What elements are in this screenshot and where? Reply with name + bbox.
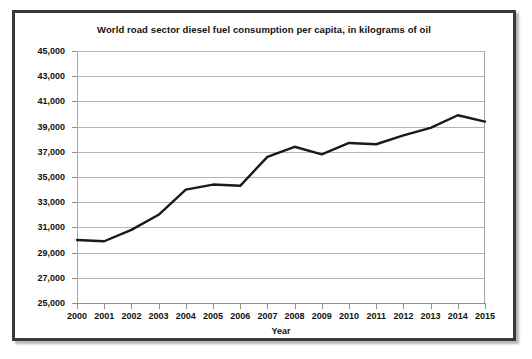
x-axis-tick-label: 2004 (176, 311, 196, 321)
x-axis-tick-mark (213, 303, 214, 309)
x-axis-tick-mark (295, 303, 296, 309)
y-axis-tick-label: 25,000 (11, 298, 65, 308)
x-axis-tick-mark (376, 303, 377, 309)
x-axis-tick-label: 2007 (257, 311, 277, 321)
x-axis-tick-label: 2001 (94, 311, 114, 321)
x-axis-tick-label: 2000 (67, 311, 87, 321)
y-axis-tick-label: 31,000 (11, 222, 65, 232)
x-axis-tick-mark (240, 303, 241, 309)
x-axis-tick-mark (458, 303, 459, 309)
y-axis-tick-label: 29,000 (11, 248, 65, 258)
x-axis-tick-mark (131, 303, 132, 309)
x-axis-title: Year (77, 326, 485, 336)
x-axis-tick-label: 2002 (121, 311, 141, 321)
x-axis-tick-mark (77, 303, 78, 309)
x-axis-tick-label: 2011 (366, 311, 386, 321)
x-axis-tick-label: 2008 (285, 311, 305, 321)
x-axis-tick-mark (159, 303, 160, 309)
y-axis-tick-label: 45,000 (11, 46, 65, 56)
x-axis-tick-label: 2013 (421, 311, 441, 321)
y-axis-tick-label: 41,000 (11, 96, 65, 106)
x-axis-tick-label: 2006 (230, 311, 250, 321)
x-axis-tick-label: 2005 (203, 311, 223, 321)
x-axis-tick-mark (349, 303, 350, 309)
x-axis-line (77, 303, 485, 304)
data-series-line (77, 51, 485, 303)
plot-area (77, 51, 485, 303)
x-axis-tick-mark (403, 303, 404, 309)
x-axis-tick-label: 2009 (312, 311, 332, 321)
y-axis-tick-label: 39,000 (11, 122, 65, 132)
x-axis-tick-label: 2010 (339, 311, 359, 321)
y-axis-tick-label: 37,000 (11, 147, 65, 157)
y-axis-tick-label: 35,000 (11, 172, 65, 182)
x-axis-tick-label: 2012 (393, 311, 413, 321)
x-axis-tick-mark (104, 303, 105, 309)
x-axis-tick-label: 2015 (475, 311, 495, 321)
x-axis-tick-mark (186, 303, 187, 309)
chart-frame: World road sector diesel fuel consumptio… (12, 10, 516, 341)
x-axis-tick-mark (485, 303, 486, 309)
x-axis-tick-mark (431, 303, 432, 309)
x-axis-tick-mark (267, 303, 268, 309)
y-axis-tick-label: 33,000 (11, 197, 65, 207)
x-axis-tick-mark (322, 303, 323, 309)
y-axis-tick-label: 27,000 (11, 273, 65, 283)
x-axis-tick-label: 2014 (448, 311, 468, 321)
chart-title: World road sector diesel fuel consumptio… (15, 24, 513, 35)
x-axis-tick-label: 2003 (149, 311, 169, 321)
y-axis-tick-label: 43,000 (11, 71, 65, 81)
